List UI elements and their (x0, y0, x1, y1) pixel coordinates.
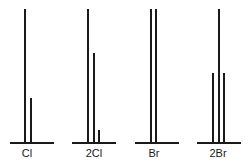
baseline (10, 142, 54, 144)
group-br: Br (124, 0, 186, 167)
group-label: Cl (0, 147, 57, 159)
peak-bar (212, 73, 214, 143)
peak-bar (87, 9, 89, 143)
peak-bar (223, 73, 225, 143)
peak-bar (93, 53, 95, 143)
peak-bar (218, 9, 220, 143)
peak-bar (98, 130, 100, 143)
group-label: 2Br (188, 147, 248, 159)
group-label: 2Cl (64, 147, 124, 159)
group-2br: 2Br (186, 0, 249, 167)
group-label: Br (124, 147, 184, 159)
peak-bar (24, 9, 26, 143)
baseline (135, 142, 179, 144)
peak-bar (155, 9, 157, 143)
group-cl: Cl (0, 0, 62, 167)
peak-bar (150, 9, 152, 143)
peak-bar (30, 98, 32, 143)
group-2cl: 2Cl (62, 0, 124, 167)
